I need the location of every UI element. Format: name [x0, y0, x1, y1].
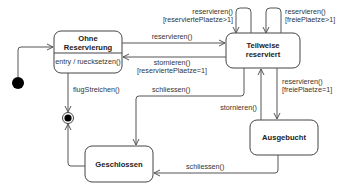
- state-name-line1: Ohne: [78, 34, 97, 43]
- state-diagram: Ohne Reservierung entry / ruecksetzen() …: [0, 0, 340, 190]
- transition-label: reservieren(): [152, 32, 193, 41]
- final-state: [63, 113, 74, 124]
- state-name-line2: reserviert: [246, 50, 281, 59]
- state-name: Geschlossen: [95, 160, 143, 169]
- transition-label: schliessen(): [186, 162, 224, 171]
- transition-guard: [reserviertePlaetze=1]: [137, 66, 207, 75]
- transition-label: stornieren(): [220, 103, 257, 112]
- transition-guard: [reserviertePlaetze>1]: [163, 15, 233, 24]
- state-name-line2: Reservierung: [64, 43, 113, 52]
- transition-geschlossen-to-final: [68, 124, 85, 166]
- entry-action: entry / ruecksetzen(): [55, 57, 121, 66]
- state-geschlossen: Geschlossen: [85, 146, 153, 182]
- transition-guard: [freiePlaetze=1]: [282, 85, 332, 94]
- transition-label: schliessen(): [152, 85, 190, 94]
- state-name-line1: Teilweise: [246, 41, 279, 50]
- initial-state: [12, 77, 24, 89]
- state-ohne-reservierung: Ohne Reservierung entry / ruecksetzen(): [54, 31, 122, 73]
- state-ausgebucht: Ausgebucht: [250, 120, 318, 155]
- transition-label: flugStreichen(): [73, 85, 120, 94]
- transition-guard: [freiePlaetze>1]: [285, 15, 335, 24]
- state-teilweise-reserviert: Teilweise reserviert: [226, 33, 300, 68]
- transition-initial-to-ohne: [18, 47, 53, 77]
- state-name: Ausgebucht: [262, 133, 306, 142]
